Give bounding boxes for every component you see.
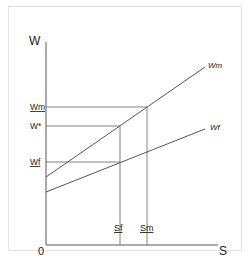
y-axis-label: W xyxy=(29,34,41,48)
origin-label: 0 xyxy=(38,245,44,257)
wf-line-label: Wf xyxy=(210,123,221,132)
x-axis-label: S xyxy=(219,244,227,258)
wf-tick-label: Wf xyxy=(30,157,41,167)
wstar-tick-label: W* xyxy=(30,121,42,131)
wm-line-label: Wm xyxy=(208,61,223,70)
wm-tick-label: Wm xyxy=(30,102,45,112)
sm-tick-label: Sm xyxy=(140,223,154,233)
wage-schooling-diagram: W S 0 Wm W* Wf Sf Sm Wm Wf xyxy=(0,0,251,268)
sf-tick-label: Sf xyxy=(114,223,123,233)
